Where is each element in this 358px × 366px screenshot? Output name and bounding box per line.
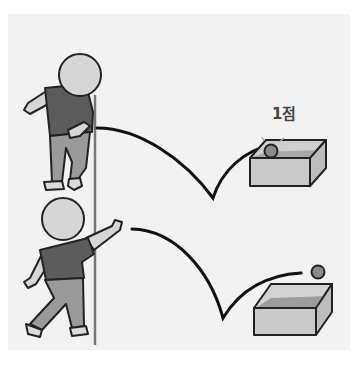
bottom-ball <box>312 266 325 279</box>
top-box <box>250 137 326 186</box>
scene-svg <box>0 0 358 366</box>
top-trajectory <box>97 128 270 198</box>
bottom-player <box>24 198 122 337</box>
score-label: 1점 <box>272 102 296 123</box>
illustration: 1점 <box>0 0 358 366</box>
bottom-box <box>254 284 332 335</box>
top-player <box>24 54 101 190</box>
